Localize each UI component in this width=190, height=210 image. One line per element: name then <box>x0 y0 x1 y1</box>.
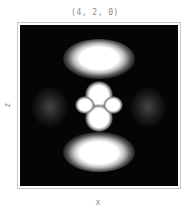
outer-left-lobe <box>32 87 68 127</box>
inner-right-lobe <box>103 96 123 114</box>
density-plot <box>20 25 178 186</box>
y-axis-label: z <box>3 99 13 111</box>
outer-bottom-lobe <box>63 132 135 172</box>
inner-left-lobe <box>75 96 95 114</box>
chart-title: (4, 2, 0) <box>0 8 190 17</box>
outer-top-lobe <box>63 39 135 79</box>
x-axis-label: x <box>0 198 190 207</box>
outer-right-lobe <box>130 87 166 127</box>
